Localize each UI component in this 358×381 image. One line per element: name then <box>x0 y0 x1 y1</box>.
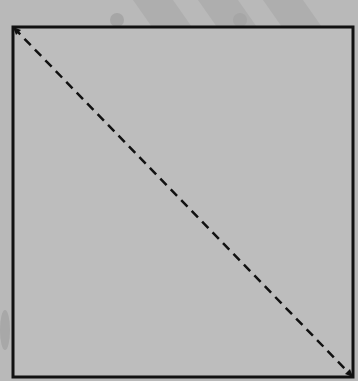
square-diagram <box>0 0 358 381</box>
